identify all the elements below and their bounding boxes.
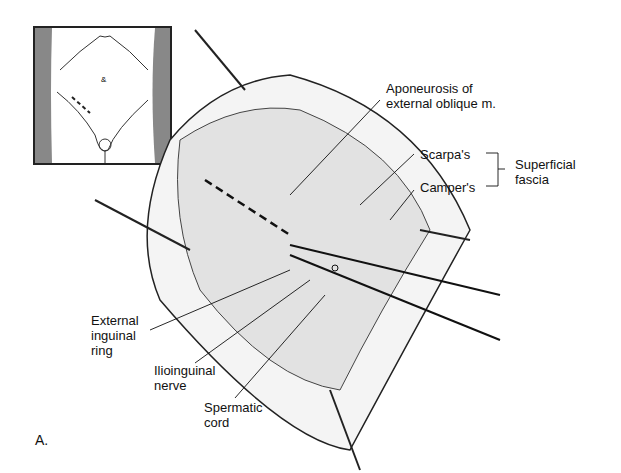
panel-label: A.	[35, 433, 48, 448]
svg-text:&: &	[101, 75, 107, 84]
label-aponeurosis: Aponeurosis of external oblique m.	[386, 81, 496, 111]
label-ilioinguinal-nerve: Ilioinguinal nerve	[154, 363, 215, 393]
label-superficial-fascia: Superficial fascia	[515, 157, 576, 187]
label-spermatic-cord: Spermatic cord	[204, 400, 263, 430]
label-external-inguinal-ring: External inguinal ring	[91, 313, 139, 358]
surgical-illustration: &	[0, 0, 621, 473]
inset-body-outline: &	[34, 27, 171, 164]
label-campers: Camper's	[420, 180, 475, 195]
label-scarpas: Scarpa's	[420, 147, 470, 162]
